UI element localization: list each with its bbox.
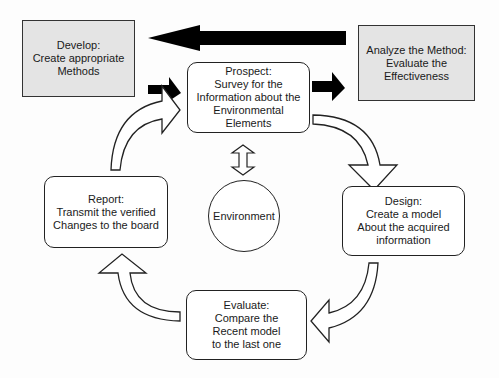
evaluate-line-1: Compare the [215, 312, 279, 325]
design-title: Design: [385, 195, 422, 208]
large-left-arrow-icon [148, 25, 346, 51]
prospect-line-4: Elements [226, 117, 272, 130]
report-node: Report: Transmit the verified Changes to… [44, 176, 168, 248]
evaluate-node: Evaluate: Compare the Recent model to th… [186, 290, 307, 360]
analyze-box: Analyze the Method: Evaluate the Effecti… [358, 25, 475, 101]
environment-label: Environment [213, 210, 275, 222]
evaluate-line-3: to the last one [212, 338, 281, 351]
design-line-2: About the acquired [357, 221, 449, 234]
process-cycle-diagram: Develop: Create appropriate Methods Anal… [0, 0, 499, 378]
analyze-title: Analyze the Method: [366, 44, 466, 57]
develop-line-2: Methods [57, 65, 99, 78]
analyze-line-1: Evaluate the [386, 57, 447, 70]
report-title: Report: [88, 193, 124, 206]
environment-node: Environment [208, 180, 280, 252]
develop-title: Develop: [57, 39, 100, 52]
prospect-line-2: Information about the [197, 91, 301, 104]
design-line-1: Create a model [366, 208, 441, 221]
curved-arrow-report-prospect-icon [111, 86, 180, 170]
develop-box: Develop: Create appropriate Methods [22, 20, 135, 97]
report-line-1: Transmit the verified [56, 206, 155, 219]
small-right-arrow-prospect-analyze-icon [312, 72, 345, 101]
evaluate-title: Evaluate: [224, 299, 270, 312]
analyze-line-2: Effectiveness [384, 70, 449, 83]
prospect-node: Prospect: Survey for the Information abo… [187, 62, 310, 133]
prospect-line-3: Environmental [213, 104, 283, 117]
double-arrow-prospect-environment-icon [232, 145, 254, 175]
develop-line-1: Create appropriate [33, 52, 125, 65]
prospect-title: Prospect: [225, 65, 271, 78]
curved-arrow-prospect-design-icon [313, 115, 397, 190]
evaluate-line-2: Recent model [213, 325, 281, 338]
report-line-2: Changes to the board [53, 219, 159, 232]
curved-arrow-evaluate-report-icon [99, 254, 180, 321]
design-node: Design: Create a model About the acquire… [342, 186, 465, 256]
curved-arrow-design-evaluate-icon [311, 263, 378, 342]
design-line-3: information [376, 234, 430, 247]
prospect-line-1: Survey for the [214, 78, 282, 91]
